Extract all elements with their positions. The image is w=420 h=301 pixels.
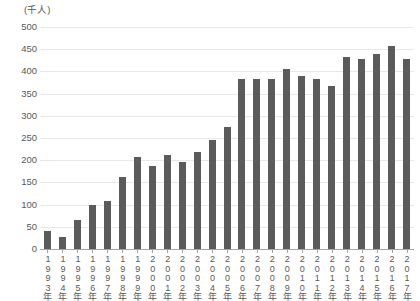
x-axis-tick-label: 1999年 <box>132 254 143 292</box>
x-axis-tick-label: 2007年 <box>251 254 262 292</box>
x-axis-tick-label-text: 2016年 <box>386 254 397 301</box>
x-axis-tick-label: 2003年 <box>192 254 203 292</box>
x-axis-tick-mark <box>332 249 333 253</box>
y-axis-tick-label: 250 <box>3 133 37 143</box>
bar <box>179 162 186 249</box>
x-axis-tick-label-text: 1998年 <box>117 254 128 301</box>
x-axis-tick-label-text: 1997年 <box>102 254 113 301</box>
bar <box>328 86 335 249</box>
x-axis-tick-label: 2016年 <box>386 254 397 292</box>
x-axis-tick-mark <box>62 249 63 253</box>
bar <box>253 79 260 249</box>
bar <box>388 46 395 249</box>
bar <box>268 79 275 249</box>
x-axis-tick-mark <box>152 249 153 253</box>
x-axis-tick-label: 2011年 <box>311 254 322 292</box>
x-axis-tick-label-text: 2010年 <box>296 254 307 301</box>
x-axis-tick-label-text: 2000年 <box>147 254 158 301</box>
x-axis-tick-mark <box>242 249 243 253</box>
x-axis-tick-mark <box>77 249 78 253</box>
x-axis-tick-mark <box>107 249 108 253</box>
x-axis-tick-mark <box>392 249 393 253</box>
x-axis-tick-label-text: 2013年 <box>341 254 352 301</box>
bar <box>119 177 126 249</box>
bar <box>238 79 245 249</box>
bar <box>209 140 216 249</box>
x-axis-tick-label: 2012年 <box>326 254 337 292</box>
bar <box>134 157 141 249</box>
x-axis-tick-label-text: 2008年 <box>266 254 277 301</box>
bar <box>74 220 81 249</box>
bar <box>149 166 156 249</box>
x-axis-tick-label: 2014年 <box>356 254 367 292</box>
x-axis-tick-label: 2015年 <box>371 254 382 292</box>
bar <box>44 231 51 249</box>
bar <box>343 57 350 249</box>
x-axis-tick-mark <box>182 249 183 253</box>
bar <box>298 76 305 249</box>
y-axis-tick-label: 500 <box>3 22 37 32</box>
bar <box>104 201 111 249</box>
bar <box>283 69 290 249</box>
x-axis-tick-label-text: 2017年 <box>401 254 412 301</box>
x-axis-tick-mark <box>317 249 318 253</box>
y-axis-tick-label: 100 <box>3 200 37 210</box>
x-axis-tick-mark <box>302 249 303 253</box>
x-axis-tick-label-text: 2015年 <box>371 254 382 301</box>
bar <box>313 79 320 249</box>
x-axis-tick-label: 2008年 <box>266 254 277 292</box>
x-axis-tick-mark <box>227 249 228 253</box>
x-axis-tick-mark <box>92 249 93 253</box>
x-axis-tick-label: 1997年 <box>102 254 113 292</box>
x-axis-tick-label-text: 2001年 <box>162 254 173 301</box>
y-axis-tick-labels: 500450400350300250200150100500 <box>0 27 37 249</box>
bars-layer <box>40 27 414 249</box>
x-axis-tick-label-text: 1993年 <box>42 254 53 301</box>
x-axis-tick-label: 2005年 <box>222 254 233 292</box>
x-axis-tick-label: 2002年 <box>177 254 188 292</box>
bar <box>373 54 380 249</box>
y-axis-tick-label: 0 <box>3 244 37 254</box>
y-axis-tick-label: 400 <box>3 66 37 76</box>
bar <box>358 59 365 249</box>
y-axis-unit-label: (千人) <box>24 4 50 15</box>
x-axis-tick-mark <box>47 249 48 253</box>
x-axis-tick-label-text: 2004年 <box>207 254 218 301</box>
x-axis-tick-label-text: 2007年 <box>251 254 262 301</box>
x-axis-tick-label: 2001年 <box>162 254 173 292</box>
x-axis-tick-label: 1994年 <box>57 254 68 292</box>
x-axis-tick-mark <box>212 249 213 253</box>
x-axis-tick-label-text: 2014年 <box>356 254 367 301</box>
x-axis-tick-mark <box>407 249 408 253</box>
x-axis-tick-label: 1993年 <box>42 254 53 292</box>
x-axis-tick-label-text: 2003年 <box>192 254 203 301</box>
bar <box>89 205 96 249</box>
bar <box>224 127 231 249</box>
x-axis-tick-mark <box>377 249 378 253</box>
y-axis-tick-label: 50 <box>3 222 37 232</box>
x-axis-tick-label-text: 1994年 <box>57 254 68 301</box>
bar <box>164 155 171 249</box>
x-axis-tick-mark <box>257 249 258 253</box>
x-axis-tick-label: 2017年 <box>401 254 412 292</box>
x-axis-tick-labels: 1993年1994年1995年1996年1997年1998年1999年2000年… <box>40 249 414 292</box>
y-axis-tick-label: 350 <box>3 89 37 99</box>
x-axis-tick-label: 2000年 <box>147 254 158 292</box>
bar <box>194 152 201 249</box>
x-axis-tick-label-text: 1999年 <box>132 254 143 301</box>
x-axis-tick-mark <box>347 249 348 253</box>
x-axis-tick-mark <box>272 249 273 253</box>
x-axis-tick-label: 1996年 <box>87 254 98 292</box>
x-axis-tick-label: 1995年 <box>72 254 83 292</box>
x-axis-tick-label-text: 2009年 <box>281 254 292 301</box>
x-axis-tick-label-text: 2012年 <box>326 254 337 301</box>
x-axis-tick-mark <box>167 249 168 253</box>
x-axis-tick-mark <box>362 249 363 253</box>
x-axis-tick-label-text: 2005年 <box>222 254 233 301</box>
x-axis-tick-label: 2009年 <box>281 254 292 292</box>
x-axis-tick-label: 1998年 <box>117 254 128 292</box>
y-axis-tick-label: 450 <box>3 44 37 54</box>
y-axis-tick-label: 150 <box>3 177 37 187</box>
x-axis-tick-label: 2010年 <box>296 254 307 292</box>
